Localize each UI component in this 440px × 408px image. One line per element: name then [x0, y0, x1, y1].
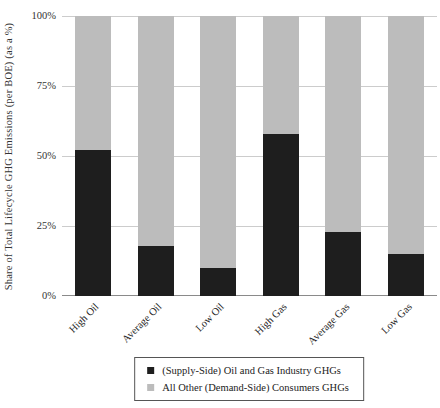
legend-box: (Supply-Side) Oil and Gas Industry GHGsA…: [134, 357, 364, 401]
x-tick-average-oil: Average Oil: [120, 301, 164, 345]
stacked-bar-chart-figure: Share of Total Lifecycle GHG Emissions (…: [0, 0, 440, 408]
demand-side-segment: [263, 16, 299, 134]
bar-slot-average-gas: [312, 16, 375, 296]
bar-slot-average-oil: [125, 16, 188, 296]
stacked-bar-average-gas: [325, 16, 361, 296]
bar-slot-low-gas: [375, 16, 438, 296]
legend-item: All Other (Demand-Side) Consumers GHGs: [147, 381, 349, 394]
demand-side-segment: [388, 16, 424, 254]
demand-side-segment: [75, 16, 111, 150]
y-tick-100%: 100%: [0, 10, 56, 22]
stacked-bar-low-gas: [388, 16, 424, 296]
y-tick-0%: 0%: [0, 290, 56, 302]
legend-label: (Supply-Side) Oil and Gas Industry GHGs: [162, 364, 341, 377]
stacked-bar-low-oil: [200, 16, 236, 296]
legend-label: All Other (Demand-Side) Consumers GHGs: [162, 381, 349, 394]
stacked-bar-average-oil: [138, 16, 174, 296]
legend-item: (Supply-Side) Oil and Gas Industry GHGs: [147, 364, 349, 377]
demand-side-segment: [325, 16, 361, 232]
supply-side-segment: [75, 150, 111, 296]
demand-side-segment: [138, 16, 174, 246]
supply-side-segment: [200, 268, 236, 296]
supply-side-segment: [138, 246, 174, 296]
x-tick-high-gas: High Gas: [252, 301, 288, 337]
x-tick-high-oil: High Oil: [67, 301, 101, 335]
bar-slot-high-oil: [62, 16, 125, 296]
y-tick-50%: 50%: [0, 150, 56, 162]
x-tick-low-gas: Low Gas: [379, 301, 414, 336]
stacked-bar-high-oil: [75, 16, 111, 296]
x-tick-low-oil: Low Oil: [193, 301, 226, 334]
stacked-bar-high-gas: [263, 16, 299, 296]
y-tick-75%: 75%: [0, 80, 56, 92]
plot-area: High OilAverage OilLow OilHigh GasAverag…: [62, 16, 437, 296]
supply-side-segment: [388, 254, 424, 296]
y-axis-tick-labels: 0%25%50%75%100%: [0, 0, 56, 408]
legend-swatch-icon: [147, 384, 154, 391]
demand-side-segment: [200, 16, 236, 268]
supply-side-segment: [263, 134, 299, 296]
legend-swatch-icon: [147, 367, 154, 374]
bar-slot-low-oil: [187, 16, 250, 296]
bar-slot-high-gas: [250, 16, 313, 296]
y-tick-25%: 25%: [0, 220, 56, 232]
x-tick-average-gas: Average Gas: [305, 301, 351, 347]
supply-side-segment: [325, 232, 361, 296]
